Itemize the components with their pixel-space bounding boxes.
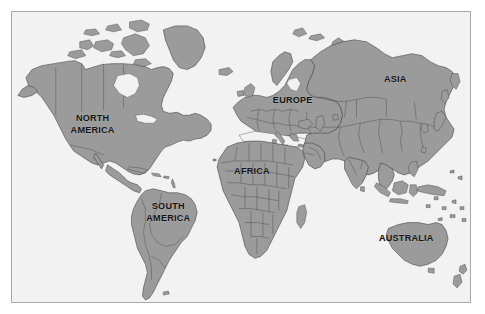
aral-sea [333,114,339,120]
label-north-america-line1: NORTH [76,113,109,123]
ireland [237,90,244,96]
label-south-america-line2: AMERICA [146,213,190,223]
pacific-islet-7 [462,219,466,222]
pacific-islet-6 [450,215,455,218]
label-europe: EUROPE [273,95,313,105]
pacific-islet-10 [434,197,438,200]
label-north-america-line2: AMERICA [71,125,115,135]
tasmania-island [428,268,434,273]
pacific-islet-4 [460,207,464,210]
label-africa: AFRICA [234,166,270,176]
pacific-islet-9 [426,205,430,208]
label-asia: ASIA [384,74,407,84]
sri-lanka-island [360,187,364,192]
map-frame: NORTH AMERICA SOUTH AMERICA EUROPE AFRIC… [11,11,471,303]
label-south-america-line1: SOUTH [152,201,185,211]
pacific-islet-5 [442,207,446,210]
world-map-figure: NORTH AMERICA SOUTH AMERICA EUROPE AFRIC… [0,0,485,314]
map-canvas: NORTH AMERICA SOUTH AMERICA EUROPE AFRIC… [12,12,470,302]
label-australia: AUSTRALIA [379,233,434,243]
canary-islands [213,159,216,161]
taiwan-island [421,147,426,153]
